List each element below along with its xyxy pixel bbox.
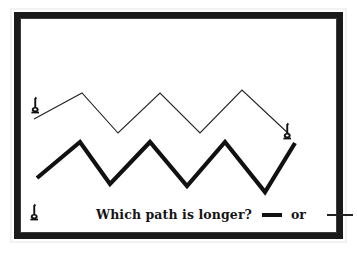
caption-row: Which path is longer? or xyxy=(96,205,353,225)
end-marker-thin-icon xyxy=(281,122,294,141)
thick-path-polyline xyxy=(37,142,295,192)
conjunction-text: or xyxy=(291,209,306,222)
legend-swatch-thick xyxy=(262,213,282,217)
legend-swatch-thin xyxy=(327,214,353,215)
illusion-figure: Which path is longer? or xyxy=(0,0,357,253)
start-marker-thick-icon xyxy=(28,203,41,222)
start-marker-thin-icon xyxy=(29,96,42,115)
thin-path-polyline xyxy=(34,90,290,135)
question-text: Which path is longer? xyxy=(96,209,252,222)
